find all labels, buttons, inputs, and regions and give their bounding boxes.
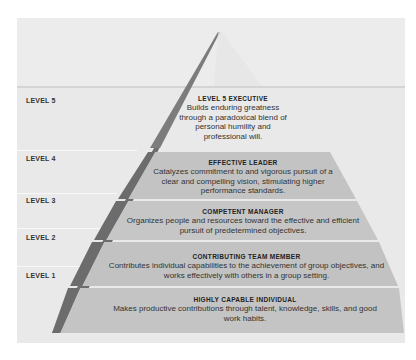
tier-1-description: Makes productive contributions through t… xyxy=(110,304,380,323)
tier-3-title: COMPETENT MANAGER xyxy=(118,208,368,215)
apex-highlight xyxy=(214,32,262,86)
level-label-2: LEVEL 2 xyxy=(26,234,56,241)
tier-4-text: EFFECTIVE LEADER Catalyzes commitment to… xyxy=(148,159,338,196)
tier-5-title: LEVEL 5 EXECUTIVE xyxy=(178,95,288,102)
tier-2-title: CONTRIBUTING TEAM MEMBER xyxy=(104,253,389,260)
level-label-4: LEVEL 4 xyxy=(26,155,56,162)
tier-2-description: Contributes individual capabilities to t… xyxy=(104,261,389,280)
tier-1-text: HIGHLY CAPABLE INDIVIDUAL Makes producti… xyxy=(110,296,380,323)
tier-1-title: HIGHLY CAPABLE INDIVIDUAL xyxy=(110,296,380,303)
tier-3-text: COMPETENT MANAGER Organizes people and r… xyxy=(118,208,368,235)
level-label-5: LEVEL 5 xyxy=(26,97,56,104)
level-label-3: LEVEL 3 xyxy=(26,197,56,204)
tier-4-description: Catalyzes commitment to and vigorous pur… xyxy=(148,167,338,196)
tier-3-description: Organizes people and resources toward th… xyxy=(118,216,368,235)
tier-5-description: Builds enduring greatness through a para… xyxy=(178,103,288,141)
level-label-1: LEVEL 1 xyxy=(26,272,56,279)
tier-4-title: EFFECTIVE LEADER xyxy=(148,159,338,166)
tier-5-text: LEVEL 5 EXECUTIVE Builds enduring greatn… xyxy=(178,95,288,141)
tier-2-text: CONTRIBUTING TEAM MEMBER Contributes ind… xyxy=(104,253,389,280)
